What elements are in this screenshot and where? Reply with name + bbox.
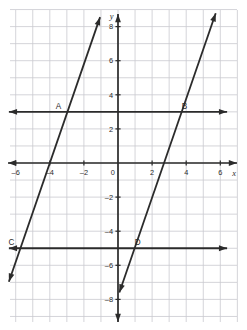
x-tick-label-4: 4 bbox=[184, 168, 188, 177]
y-tick-label--2: –2 bbox=[105, 193, 113, 202]
x-tick-label-2: 2 bbox=[150, 168, 154, 177]
x-tick-label--6: –6 bbox=[12, 168, 20, 177]
x-tick-label--4: –4 bbox=[46, 168, 54, 177]
point-label-a: A bbox=[56, 102, 62, 111]
y-tick-label-6: 6 bbox=[109, 56, 113, 65]
y-tick-label--4: –4 bbox=[105, 227, 113, 236]
x-tick-label-0: 0 bbox=[111, 168, 115, 177]
x-tick-label--2: –2 bbox=[80, 168, 88, 177]
point-label-d: D bbox=[135, 238, 141, 247]
point-label-b: B bbox=[182, 102, 188, 111]
graph-canvas: –6–4–202468642–2–4–6–8 xy ABCD bbox=[0, 0, 247, 330]
point-label-c: C bbox=[9, 238, 15, 247]
y-axis-name-label: y bbox=[109, 12, 114, 21]
x-tick-label-6: 6 bbox=[218, 168, 222, 177]
coordinate-plane-figure: –6–4–202468642–2–4–6–8 xy ABCD bbox=[0, 0, 247, 330]
y-tick-label-8: 8 bbox=[109, 22, 113, 31]
y-tick-label--6: –6 bbox=[105, 261, 113, 270]
y-tick-label-4: 4 bbox=[109, 91, 113, 100]
y-tick-label-2: 2 bbox=[109, 125, 113, 134]
x-axis-name-label: x bbox=[231, 169, 236, 178]
y-tick-label--8: –8 bbox=[105, 295, 113, 304]
